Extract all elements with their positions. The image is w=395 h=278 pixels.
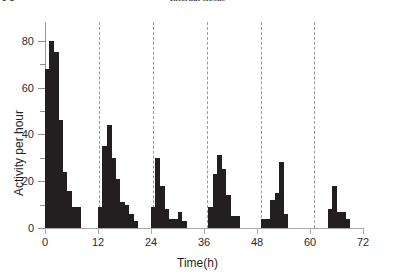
x-tick <box>204 229 205 234</box>
x-tick-label: 12 <box>92 236 104 248</box>
x-tick-label: 24 <box>145 236 157 248</box>
y-axis-title: Activity per hour <box>12 110 26 196</box>
y-minor-tick <box>40 64 45 65</box>
y-tick <box>38 41 45 42</box>
x-tick <box>45 229 46 234</box>
y-minor-tick <box>40 205 45 206</box>
x-tick <box>98 229 99 234</box>
running-header: 5 8 Internal clocks <box>0 0 395 9</box>
histogram-bar <box>345 219 350 228</box>
x-tick-label: 36 <box>198 236 210 248</box>
x-tick-label: 48 <box>251 236 263 248</box>
x-tick-label: 0 <box>42 236 48 248</box>
histogram-bar <box>133 221 138 228</box>
onset-marker-line <box>99 22 100 228</box>
x-tick <box>257 229 258 234</box>
x-axis-title: Time(h) <box>0 256 395 270</box>
plot-area <box>45 22 363 228</box>
onset-marker-line <box>314 22 315 228</box>
histogram-bar <box>76 207 81 228</box>
y-minor-tick <box>40 111 45 112</box>
figure-panel: 5 8 Internal clocks 020406080 0122436486… <box>0 0 395 278</box>
x-tick <box>363 229 364 234</box>
y-tick <box>38 134 45 135</box>
x-tick-label: 72 <box>357 236 369 248</box>
histogram-bar <box>284 214 289 228</box>
y-tick-label: 0 <box>28 222 34 234</box>
histogram-bar <box>182 221 187 228</box>
x-tick <box>310 229 311 234</box>
y-minor-tick <box>40 158 45 159</box>
onset-marker-line <box>207 22 208 228</box>
onset-marker-line <box>261 22 262 228</box>
y-tick-label: 60 <box>22 82 34 94</box>
y-tick <box>38 181 45 182</box>
onset-marker-line <box>153 22 154 228</box>
y-tick <box>38 228 45 229</box>
histogram-bar <box>235 216 240 228</box>
running-title: Internal clocks <box>0 0 395 3</box>
y-tick-label: 80 <box>22 35 34 47</box>
x-tick <box>151 229 152 234</box>
x-tick-label: 60 <box>304 236 316 248</box>
y-tick <box>38 88 45 89</box>
